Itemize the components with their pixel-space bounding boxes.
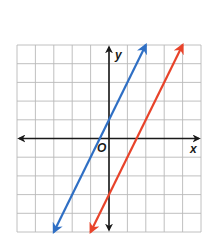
y-axis-label: y [114, 48, 123, 62]
coordinate-plane: y x O [0, 0, 209, 234]
x-axis-label: x [189, 142, 198, 156]
origin-label: O [97, 141, 107, 155]
axes [19, 47, 199, 230]
